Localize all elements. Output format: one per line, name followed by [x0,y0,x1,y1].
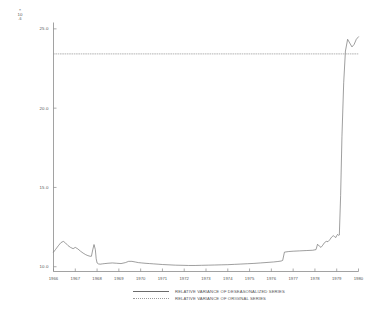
x-tick-label: 1977 [281,276,305,281]
chart-figure: × 10 -6 25.020.015.010.0 196619671968196… [0,0,388,317]
legend-item-original: RELATIVE VARIANCE OF ORIGINAL SERIES [133,295,363,302]
legend-label-deseasonalized: RELATIVE VARIANCE OF DESEASONALIZED SERI… [169,289,285,294]
x-tick-label: 1973 [194,276,218,281]
x-tick-label: 1967 [63,276,87,281]
legend-item-deseasonalized: RELATIVE VARIANCE OF DESEASONALIZED SERI… [133,288,363,295]
x-tick-label: 1974 [216,276,240,281]
x-tick-label: 1969 [107,276,131,281]
x-tick-label: 1979 [325,276,349,281]
legend-label-original: RELATIVE VARIANCE OF ORIGINAL SERIES [169,296,266,301]
series-line-1 [54,37,359,266]
x-tick-label: 1975 [238,276,262,281]
x-tick-label: 1966 [42,276,66,281]
y-tick-label: 20.0 [25,106,49,111]
x-tick-label: 1970 [129,276,153,281]
plot-area [0,0,388,317]
x-tick-label: 1978 [303,276,327,281]
legend-key-solid-line [133,289,169,294]
y-tick-label: 15.0 [25,185,49,190]
y-tick-label: 25.0 [25,26,49,31]
y-tick-label: 10.0 [25,264,49,269]
x-tick-label: 1980 [347,276,371,281]
x-tick-label: 1968 [85,276,109,281]
legend-key-dotted-line [133,296,169,301]
x-tick-label: 1971 [150,276,174,281]
x-tick-label: 1976 [259,276,283,281]
chart-legend: RELATIVE VARIANCE OF DESEASONALIZED SERI… [133,288,363,302]
x-tick-label: 1972 [172,276,196,281]
